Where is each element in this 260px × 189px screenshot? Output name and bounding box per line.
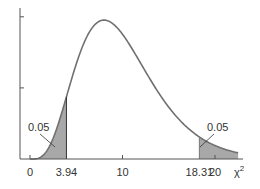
chi-square-chart: 03.941018.3120 χ2 0.050.05 bbox=[0, 0, 260, 189]
tail-probability-label: 0.05 bbox=[207, 121, 228, 133]
tail-probability-label: 0.05 bbox=[28, 121, 49, 133]
x-tick-label: 20 bbox=[209, 166, 221, 178]
x-tick-label: 10 bbox=[116, 166, 128, 178]
x-tick-label: 3.94 bbox=[56, 166, 77, 178]
x-axis-label: χ2 bbox=[234, 164, 245, 178]
critical-value-lines bbox=[66, 97, 199, 159]
y-axis-ticks bbox=[20, 17, 24, 88]
x-tick-label: 0 bbox=[27, 166, 33, 178]
